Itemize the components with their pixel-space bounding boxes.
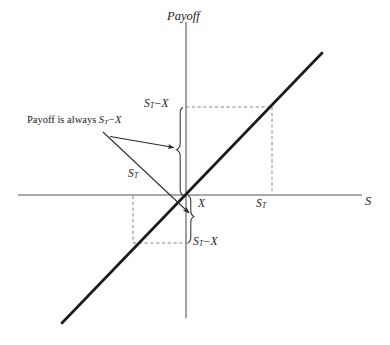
annotation-prefix-text: Payoff is always [27,114,99,125]
st-right-symbol: S [256,197,262,209]
lower-bracket-subscript: T [199,239,203,248]
payoff-axis-label: Payoff [167,10,200,23]
lower-bracket-operator: − [204,235,211,247]
annotation-strike: X [115,114,121,125]
payoff-line [62,53,322,323]
st-left-symbol: S [128,167,134,179]
strike-price-label: X [198,198,205,210]
payoff-diagram-canvas [0,0,390,345]
upper-bracket-strike: X [162,97,169,109]
s-axis-label: S [365,195,371,208]
annotation-subscript: T [104,118,108,126]
upper-bracket-symbol: S [144,97,150,109]
payoff-annotation: Payoff is always ST−X [27,115,122,126]
upper-bracket-subscript: T [150,101,154,110]
callout-leaders-group [103,132,189,213]
lower-bracket-symbol: S [193,235,199,247]
st-left-subscript: T [134,171,138,180]
st-right-subscript: T [262,201,266,210]
callout-arrow-lower [103,132,189,213]
st-right-label: ST [256,198,266,210]
lower-bracket-strike: X [211,235,218,247]
callout-arrow-upper [110,137,174,148]
lower-bracket-label: ST−X [193,236,218,248]
payoff-diagram-figure: Payoff S Payoff is always ST−X ST−X ST X… [0,0,390,345]
annotation-operator: − [109,114,115,125]
upper-bracket-label: ST−X [144,98,169,110]
upper-bracket-operator: − [155,97,162,109]
annotation-formula: ST−X [99,114,122,125]
upper-brace [177,108,183,195]
st-left-label: ST [128,168,138,180]
